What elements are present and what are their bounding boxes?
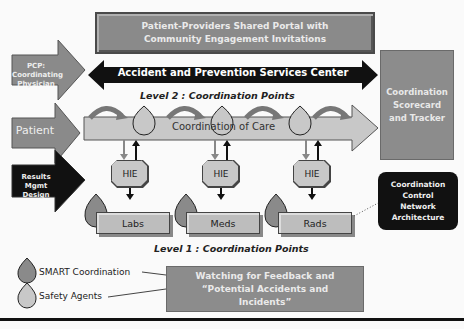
hie-node-3: HIE — [293, 160, 331, 188]
watch-feedback-box: Watching for Feedback and “Potential Acc… — [166, 266, 364, 312]
level1-label: Level 1 : Coordination Points — [154, 243, 309, 254]
care-arrow-label: Coordination of Care — [172, 121, 275, 132]
hie-label: HIE — [111, 160, 149, 188]
shared-portal-box: Patient-Providers Shared Portal with Com… — [95, 12, 375, 54]
legend-safety-label: Safety Agents — [39, 291, 102, 301]
bottom-divider — [0, 318, 464, 321]
dept-label: Rads — [303, 218, 326, 229]
scorecard-label: Coordination Scorecard and Tracker — [380, 86, 454, 125]
center-arrow-label: Accident and Prevention Services Center — [108, 67, 358, 78]
hie-label: HIE — [202, 160, 240, 188]
hie-node-2: HIE — [202, 160, 240, 188]
hie-node-1: HIE — [111, 160, 149, 188]
dept-label: Meds — [210, 218, 235, 229]
safety-drop-icon — [18, 283, 36, 308]
dept-labs: Labs — [96, 212, 170, 234]
shared-portal-label: Patient-Providers Shared Portal with Com… — [97, 20, 373, 46]
control-network-label: Coordination Control Network Architectur… — [378, 179, 458, 223]
smart-drop-icon — [18, 258, 36, 283]
legend-graphics — [16, 256, 166, 312]
dept-label: Labs — [122, 218, 144, 229]
level2-label: Level 2 : Coordination Points — [140, 90, 295, 101]
control-network-box: Coordination Control Network Architectur… — [378, 172, 458, 230]
legend-smart-label: SMART Coordination — [39, 267, 130, 277]
scorecard-box: Coordination Scorecard and Tracker — [380, 50, 454, 160]
results-mgmt-label: Results Mgmt Design — [12, 173, 60, 200]
dept-meds: Meds — [186, 212, 260, 234]
dept-rads: Rads — [278, 212, 352, 234]
pcp-label: PCP: Coordinating Physician — [12, 62, 60, 89]
hie-label: HIE — [293, 160, 331, 188]
patient-label: Patient — [12, 124, 58, 137]
watch-feedback-label: Watching for Feedback and “Potential Acc… — [167, 270, 363, 309]
